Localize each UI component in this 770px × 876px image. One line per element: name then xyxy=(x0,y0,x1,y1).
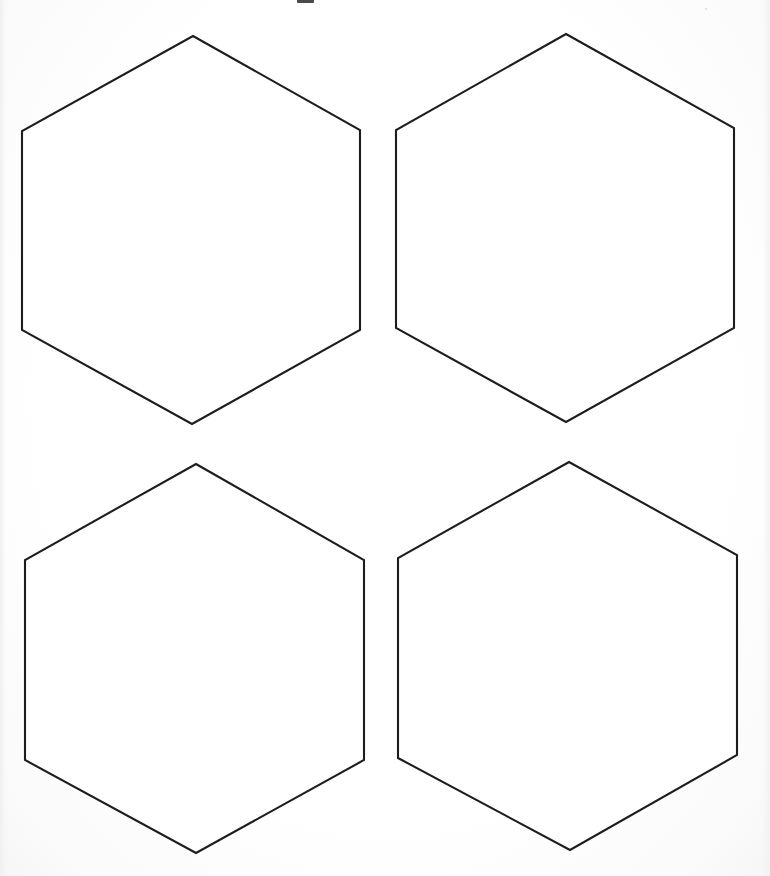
scan-speck-icon xyxy=(705,8,707,10)
hexagon-top-left[interactable] xyxy=(22,36,360,424)
template-page xyxy=(0,0,770,876)
hexagon-top-right[interactable] xyxy=(396,34,734,422)
hexagon-bottom-right[interactable] xyxy=(398,462,737,850)
hexagon-bottom-left[interactable] xyxy=(25,464,364,853)
scan-artifact-icon xyxy=(297,0,314,3)
hexagon-grid xyxy=(0,0,770,876)
